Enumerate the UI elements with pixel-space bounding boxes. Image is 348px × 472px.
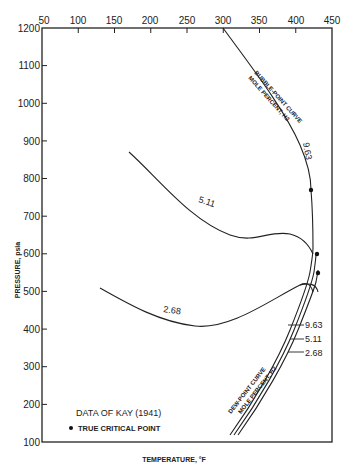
critical-point-9-63 (309, 188, 313, 192)
bubble-curve-9-63 (223, 28, 313, 248)
x-tick-label: 400 (288, 15, 305, 26)
bubble-point-curves (100, 28, 313, 326)
curve-label-5-11: 5.11 (197, 194, 216, 209)
bubble-curve-2-68 (100, 284, 313, 327)
x-tick-label: 200 (142, 15, 159, 26)
bubble-curve-5-11 (129, 152, 313, 254)
x-axis (78, 28, 296, 33)
critical-point-2-68 (316, 271, 320, 275)
plot-frame (42, 28, 332, 442)
bubble-point-title: BUBBLE-POINT CURVE (253, 70, 303, 124)
y-tick-label: 800 (23, 173, 40, 184)
x-axis-title: TEMPERATURE, °F (142, 456, 206, 464)
y-tick-labels: 100 200 300 400 500 600 700 800 900 1000… (18, 23, 41, 448)
x-tick-label: 450 (324, 15, 341, 26)
dew-point-annotation: DEW-POINT CURVE MOLE PERCENT, H2 (227, 360, 278, 420)
x-tick-label: 50 (38, 15, 50, 26)
legend-marker-icon (69, 426, 73, 430)
bubble-point-annotation: BUBBLE-POINT CURVE MOLE PERCENT, H2 (247, 70, 303, 130)
y-tick-label: 300 (23, 361, 40, 372)
legend-source: DATA OF KAY (1941) (76, 408, 161, 418)
x-tick-label: 100 (70, 15, 87, 26)
y-tick-label: 900 (23, 136, 40, 147)
phase-diagram: 50 100 150 200 250 300 350 400 450 100 2… (0, 0, 348, 472)
y-tick-label: 100 (23, 437, 40, 448)
legend-marker-label: TRUE CRITICAL POINT (78, 424, 161, 433)
y-tick-label: 1200 (18, 23, 41, 34)
curve-label-2-68: 2.68 (163, 304, 182, 316)
y-tick-label: 1000 (18, 98, 41, 109)
y-tick-label: 400 (23, 324, 40, 335)
x-tick-label: 250 (179, 15, 196, 26)
critical-points (309, 188, 320, 275)
y-axis (42, 66, 47, 405)
y-tick-label: 500 (23, 286, 40, 297)
y-tick-label: 200 (23, 399, 40, 410)
x-tick-label: 350 (251, 15, 268, 26)
y-tick-label: 1100 (18, 60, 40, 71)
critical-point-5-11 (315, 252, 319, 256)
dew-label-5-11: 5.11 (305, 334, 322, 344)
x-tick-label: 150 (106, 15, 123, 26)
curve-label-9-63: 9.63 (301, 142, 314, 161)
dew-label-9-63: 9.63 (305, 320, 323, 330)
y-tick-label: 700 (23, 211, 40, 222)
y-tick-label: 600 (23, 248, 40, 259)
x-tick-labels: 50 100 150 200 250 300 350 400 450 (38, 15, 340, 26)
y-axis-title: PRESSURE, psia (14, 242, 22, 299)
dew-label-2-68: 2.68 (305, 348, 323, 358)
x-tick-label: 300 (215, 15, 232, 26)
